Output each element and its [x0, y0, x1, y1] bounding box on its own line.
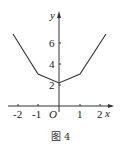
- x-tick-label: 2: [97, 108, 103, 120]
- y-axis-label: y: [49, 9, 55, 21]
- y-tick-label: 4: [49, 58, 55, 70]
- origin-label: O: [49, 108, 57, 120]
- y-axis-arrow-icon: [57, 11, 61, 18]
- function-graph: -2 -1 O 1 2 x 2 4 6 y: [0, 0, 121, 148]
- figure-caption: 图 4: [0, 128, 121, 143]
- x-tick-label: -2: [13, 108, 22, 120]
- y-tick-label: 6: [49, 37, 55, 49]
- y-tick-label: 2: [49, 79, 55, 91]
- x-axis-label: x: [104, 107, 110, 119]
- x-tick-label: 1: [77, 108, 83, 120]
- x-tick-label: -1: [32, 108, 41, 120]
